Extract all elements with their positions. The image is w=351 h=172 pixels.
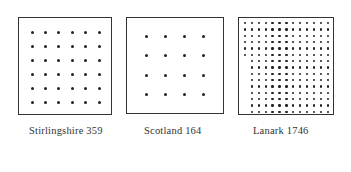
dot xyxy=(202,74,205,77)
dot xyxy=(265,73,267,75)
dot xyxy=(278,92,280,94)
dot xyxy=(258,111,260,113)
dot xyxy=(71,45,74,48)
dot xyxy=(327,85,329,87)
dot xyxy=(251,85,253,87)
dot xyxy=(265,22,267,24)
dot xyxy=(251,47,253,49)
dot xyxy=(271,104,273,106)
dot xyxy=(285,85,287,87)
dot xyxy=(327,28,329,30)
dot xyxy=(285,60,287,62)
dot xyxy=(285,28,287,30)
dot xyxy=(84,45,87,48)
dot xyxy=(44,73,47,76)
dot xyxy=(313,28,315,30)
dot xyxy=(57,101,60,104)
dot xyxy=(258,54,260,56)
dot xyxy=(320,66,322,68)
dot xyxy=(320,92,322,94)
dot xyxy=(145,74,148,77)
dot xyxy=(31,45,34,48)
dot xyxy=(258,28,260,30)
dot xyxy=(71,31,74,34)
dot xyxy=(251,92,253,94)
dot xyxy=(313,35,315,37)
dot xyxy=(278,73,280,75)
dot xyxy=(98,101,101,104)
dot xyxy=(306,47,308,49)
dot xyxy=(271,73,273,75)
dot xyxy=(258,73,260,75)
dot xyxy=(31,73,34,76)
dot xyxy=(44,31,47,34)
dot xyxy=(258,47,260,49)
dot xyxy=(183,54,186,57)
dot xyxy=(271,22,273,24)
dot xyxy=(31,59,34,62)
dot xyxy=(164,54,167,57)
dot xyxy=(327,104,329,106)
dot xyxy=(244,35,246,37)
dot xyxy=(313,85,315,87)
dot xyxy=(285,111,287,113)
dot xyxy=(183,93,186,96)
dot xyxy=(285,104,287,106)
dot xyxy=(98,59,101,62)
dot xyxy=(327,54,329,56)
dot xyxy=(71,101,74,104)
dot xyxy=(71,73,74,76)
dot xyxy=(164,93,167,96)
dot xyxy=(285,79,287,81)
dot xyxy=(57,45,60,48)
dot xyxy=(285,47,287,49)
dot xyxy=(271,41,273,43)
dot xyxy=(57,31,60,34)
dot xyxy=(320,85,322,87)
dot xyxy=(278,85,280,87)
dot xyxy=(98,87,101,90)
dot xyxy=(265,104,267,106)
label-stirlingshire: Stirlingshire 359 xyxy=(29,125,103,136)
dot xyxy=(271,35,273,37)
dot xyxy=(278,28,280,30)
dot xyxy=(244,47,246,49)
dot xyxy=(265,54,267,56)
dot xyxy=(313,66,315,68)
dot xyxy=(202,35,205,38)
dot xyxy=(258,104,260,106)
dot xyxy=(306,66,308,68)
dot xyxy=(57,87,60,90)
dot xyxy=(285,22,287,24)
dot xyxy=(183,74,186,77)
dot xyxy=(271,92,273,94)
dot xyxy=(251,104,253,106)
dot xyxy=(202,54,205,57)
dot xyxy=(285,35,287,37)
dot xyxy=(265,111,267,113)
dot xyxy=(320,28,322,30)
dot xyxy=(265,85,267,87)
dot xyxy=(98,31,101,34)
dot xyxy=(258,66,260,68)
dot xyxy=(183,35,186,38)
dot xyxy=(306,28,308,30)
dot xyxy=(84,101,87,104)
label-lanark: Lanark 1746 xyxy=(253,125,309,136)
dot xyxy=(278,104,280,106)
dot xyxy=(278,22,280,24)
label-scotland: Scotland 164 xyxy=(144,125,202,136)
dot xyxy=(265,47,267,49)
dot xyxy=(265,28,267,30)
dot xyxy=(44,45,47,48)
dot xyxy=(251,28,253,30)
dot xyxy=(84,73,87,76)
dot xyxy=(278,66,280,68)
dot xyxy=(271,28,273,30)
dot xyxy=(285,73,287,75)
dot xyxy=(271,111,273,113)
dot xyxy=(278,41,280,43)
dot xyxy=(285,41,287,43)
dot xyxy=(244,28,246,30)
dot xyxy=(145,54,148,57)
